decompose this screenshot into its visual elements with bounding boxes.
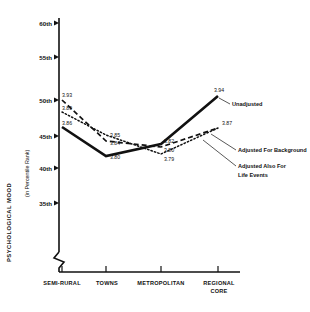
data-label-unadj-regional-core: 3.94 <box>214 87 224 93</box>
data-label-life-metropolitan: 3.79 <box>164 156 174 162</box>
y-tick-label-60th: 60th <box>39 20 52 27</box>
data-label-bg-regional-core: 3.87 <box>222 120 232 126</box>
chart-figure: 60th 55th 50th 45th 40th 35th PSYCHOLOGI… <box>0 0 310 312</box>
leader-line-adjusted-also-for-life-events <box>203 140 236 166</box>
y-tick-label-35th: 35th <box>39 200 52 207</box>
legend-label-unadjusted: Unadjusted <box>232 101 263 107</box>
data-label-bg-semi-rural: 3.93 <box>62 92 72 98</box>
y-tick-label-55th: 55th <box>39 54 52 61</box>
legend-label-adjusted-also-for: Adjusted Also For <box>238 163 287 169</box>
x-label-metropolitan: METROPOLITAN <box>137 280 184 286</box>
data-label-life-semi-rural: 3.89 <box>62 105 72 111</box>
y-tick-label-45th: 45th <box>39 133 52 140</box>
x-label-semi-rural: SEMI-RURAL <box>43 280 81 286</box>
legend-label-life-events: Life Events <box>238 172 268 178</box>
data-label-bg-towns: 3.84 <box>110 140 120 146</box>
x-tick-marks <box>62 266 218 272</box>
x-label-regional-core-line1: REGIONAL <box>203 280 235 286</box>
data-label-life-towns: 3.85 <box>110 132 120 138</box>
y-axis-subtitle: (in Percentile Rank) <box>24 149 30 197</box>
data-label-unadj-towns: 3.80 <box>110 154 120 160</box>
leader-line-unadjusted <box>219 98 230 104</box>
x-label-towns: TOWNS <box>96 280 118 286</box>
data-label-unadj-metropolitan: 3.82 <box>164 138 174 144</box>
data-label-unadj-semi-rural: 3.86 <box>62 120 72 126</box>
leader-line-adjusted-for-background <box>211 134 236 150</box>
data-label-bg-metropolitan: 3.80 <box>164 147 174 153</box>
y-tick-label-40th: 40th <box>39 165 52 172</box>
legend-label-adjusted-for-background: Adjusted For Background <box>238 147 307 153</box>
y-axis-title: PSYCHOLOGICAL MOOD <box>6 183 12 262</box>
y-tick-label-50th: 50th <box>39 97 52 104</box>
x-label-regional-core-line2: CORE <box>210 288 227 294</box>
chart-canvas: 60th 55th 50th 45th 40th 35th PSYCHOLOGI… <box>0 0 310 312</box>
